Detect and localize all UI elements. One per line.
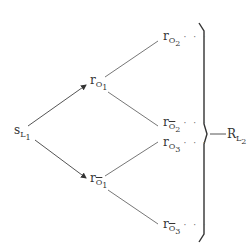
- node-o2-subsub: 2: [175, 39, 180, 48]
- node-o1: rO1: [90, 74, 107, 94]
- ellipsis: · · ·: [183, 138, 207, 148]
- tree-edges: [0, 0, 251, 243]
- node-o1-subsub: 1: [102, 83, 107, 92]
- node-root: sL1: [14, 124, 31, 144]
- ellipsis: · · ·: [183, 118, 207, 128]
- edge-o1bar-to-o3: [105, 142, 158, 176]
- node-result-subsub: 2: [241, 137, 246, 146]
- edge-o1-to-o2bar: [108, 92, 158, 126]
- edge-root-to-o1: [28, 85, 86, 126]
- node-o3-bar: rO3· · ·: [163, 218, 208, 238]
- node-o1-bar: rO1: [90, 172, 107, 192]
- node-o2bar-subsub: 2: [175, 125, 180, 134]
- node-o3bar-subsub: 3: [175, 227, 180, 236]
- node-o3: rO3· · ·: [163, 136, 208, 156]
- node-o2: rO2· · ·: [163, 30, 208, 50]
- node-o3-subsub: 3: [175, 145, 180, 154]
- ellipsis: · · ·: [183, 220, 207, 230]
- node-root-subsub: 1: [25, 133, 30, 142]
- node-result-main: R: [227, 127, 236, 141]
- node-o2-bar: rO2· · ·: [163, 116, 208, 136]
- edge-root-to-o1bar: [35, 140, 86, 178]
- ellipsis: · · ·: [183, 32, 207, 42]
- node-result: RL2: [227, 128, 246, 148]
- node-o1bar-subsub: 1: [102, 181, 107, 190]
- edge-o1bar-to-o3bar: [108, 190, 158, 224]
- edge-o1-to-o2: [105, 41, 158, 77]
